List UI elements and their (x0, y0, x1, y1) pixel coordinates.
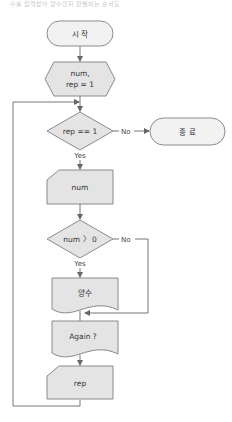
decision-rep-no-label: No (121, 128, 131, 136)
decision-num-no-label: No (121, 236, 131, 244)
output-again-label: Again ? (69, 332, 97, 341)
flowchart-diagram: 수를 입력받아 양수인지 판별하는 순서도 시 작 num, rep = 1 r… (0, 0, 232, 422)
decision-num-label: num 〉 0 (63, 235, 97, 244)
output-positive-label: 양수 (78, 289, 92, 298)
caption-text: 수를 입력받아 양수인지 판별하는 순서도 (10, 0, 120, 8)
output-positive-document: 양수 (52, 278, 118, 313)
start-terminator: 시 작 (47, 21, 113, 46)
output-again-document: Again ? (52, 321, 118, 357)
input-num-manual: num (47, 170, 113, 204)
init-label-line1: num, (70, 69, 89, 78)
decision-num-yes-label: Yes (73, 260, 86, 268)
init-preparation: num, rep = 1 (45, 62, 115, 96)
input-rep-label: rep (74, 379, 87, 388)
input-num-label: num (72, 183, 89, 192)
end-terminator: 종 료 (150, 118, 225, 145)
decision-rep-yes-label: Yes (73, 152, 86, 160)
decision-rep-label: rep == 1 (63, 127, 98, 136)
init-label-line2: rep = 1 (66, 80, 94, 89)
start-label: 시 작 (72, 29, 88, 39)
end-label: 종 료 (179, 128, 195, 137)
loop-back-connector (13, 102, 80, 406)
decision-num: num 〉 0 (47, 220, 113, 258)
input-rep-manual: rep (47, 366, 113, 399)
decision-rep: rep == 1 (47, 112, 113, 150)
